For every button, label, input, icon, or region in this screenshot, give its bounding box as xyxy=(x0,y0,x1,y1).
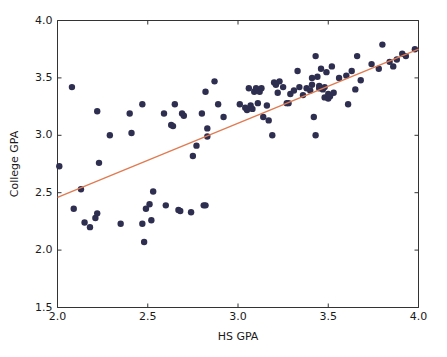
data-point xyxy=(291,87,297,93)
data-point xyxy=(107,132,113,138)
data-point xyxy=(312,53,318,59)
y-tick-label: 4.0 xyxy=(35,14,53,27)
data-point xyxy=(170,123,176,129)
data-point xyxy=(71,206,77,212)
data-point xyxy=(318,66,324,72)
data-point xyxy=(81,219,87,225)
data-point xyxy=(349,68,355,74)
data-point xyxy=(128,130,134,136)
data-point xyxy=(215,101,221,107)
chart-canvas: 2.02.53.03.54.01.52.02.53.03.54.0HS GPAC… xyxy=(0,0,447,357)
data-point xyxy=(255,100,261,106)
data-point xyxy=(117,220,123,226)
data-point xyxy=(193,142,199,148)
data-point xyxy=(379,41,385,47)
data-point xyxy=(237,101,243,107)
x-tick-label: 4.0 xyxy=(410,310,428,323)
data-point xyxy=(94,210,100,216)
data-point xyxy=(390,63,396,69)
data-point xyxy=(368,61,374,67)
data-point xyxy=(352,86,358,92)
data-point xyxy=(311,114,317,120)
x-tick-label: 3.5 xyxy=(320,310,338,323)
data-point xyxy=(69,84,75,90)
data-point xyxy=(323,69,329,75)
data-point xyxy=(96,160,102,166)
data-point xyxy=(314,74,320,80)
data-point xyxy=(309,75,315,81)
y-tick-label: 1.5 xyxy=(35,301,53,314)
data-point xyxy=(188,209,194,215)
data-point xyxy=(260,114,266,120)
data-point xyxy=(249,106,255,112)
data-point xyxy=(265,117,271,123)
data-point xyxy=(220,114,226,120)
data-point xyxy=(150,188,156,194)
data-point xyxy=(141,239,147,245)
x-axis-title: HS GPA xyxy=(218,330,259,343)
data-point xyxy=(275,90,281,96)
data-point xyxy=(354,53,360,59)
data-point xyxy=(264,102,270,108)
data-point xyxy=(163,202,169,208)
x-tick-label: 2.5 xyxy=(139,310,157,323)
data-point xyxy=(345,101,351,107)
data-point xyxy=(258,85,264,91)
data-point xyxy=(202,202,208,208)
x-tick-label: 3.0 xyxy=(229,310,247,323)
data-point xyxy=(358,77,364,83)
data-point xyxy=(56,163,62,169)
data-point xyxy=(139,220,145,226)
data-point xyxy=(202,88,208,94)
y-tick-label: 3.5 xyxy=(35,71,53,84)
plot-frame xyxy=(58,21,419,308)
data-point xyxy=(211,78,217,84)
data-point xyxy=(177,208,183,214)
data-point xyxy=(161,110,167,116)
y-tick-label: 2.0 xyxy=(35,243,53,256)
data-point xyxy=(148,217,154,223)
data-point xyxy=(127,110,133,116)
data-point xyxy=(276,78,282,84)
data-point xyxy=(329,63,335,69)
data-point xyxy=(139,101,145,107)
data-point xyxy=(190,153,196,159)
data-point xyxy=(181,113,187,119)
data-point xyxy=(280,84,286,90)
data-point xyxy=(199,110,205,116)
data-point xyxy=(294,68,300,74)
data-point xyxy=(336,75,342,81)
y-tick-label: 2.5 xyxy=(35,186,53,199)
scatter-plot-figure: 2.02.53.03.54.01.52.02.53.03.54.0HS GPAC… xyxy=(0,0,447,357)
data-point xyxy=(309,82,315,88)
data-point xyxy=(330,90,336,96)
data-point xyxy=(269,132,275,138)
y-tick-label: 3.0 xyxy=(35,128,53,141)
data-point xyxy=(87,224,93,230)
data-point xyxy=(312,132,318,138)
data-point xyxy=(172,101,178,107)
data-point xyxy=(94,108,100,114)
data-point xyxy=(146,201,152,207)
data-point xyxy=(296,84,302,90)
regression-line xyxy=(58,49,419,197)
data-point xyxy=(204,125,210,131)
y-axis-title: College GPA xyxy=(8,130,21,197)
data-point xyxy=(246,85,252,91)
